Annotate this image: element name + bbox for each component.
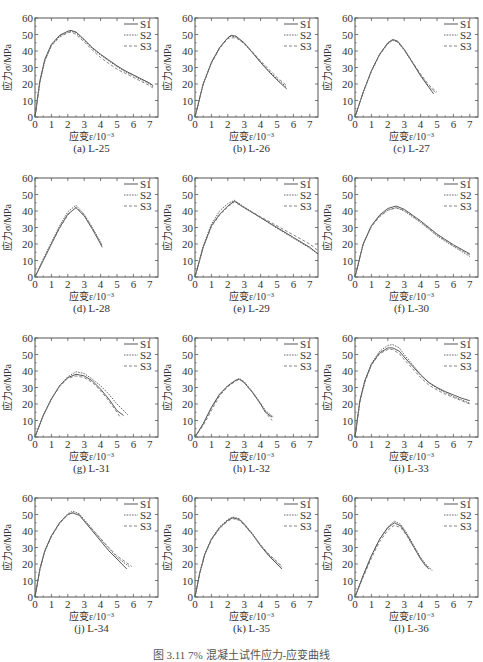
x-tick-label: 1 — [369, 278, 375, 290]
panel-caption: (i) L-33 — [394, 462, 429, 475]
x-tick-label: 7 — [147, 118, 153, 130]
series-s1-line — [355, 523, 429, 597]
y-tick-label: 0 — [188, 591, 194, 603]
y-tick-label: 30 — [22, 382, 34, 394]
x-axis-label: 应变ε/10⁻³ — [389, 610, 434, 622]
x-tick-label: 7 — [307, 118, 313, 130]
x-tick-label: 5 — [434, 278, 440, 290]
legend-label: S3 — [140, 200, 152, 212]
y-tick-label: 60 — [182, 492, 194, 504]
x-tick-label: 3 — [401, 598, 407, 610]
x-tick-label: 4 — [98, 598, 104, 610]
chart-panel-l: 012345670102030405060应力σ/MPa应变ε/10⁻³(l) … — [320, 480, 480, 640]
x-tick-label: 1 — [369, 438, 375, 450]
y-tick-label: 50 — [342, 189, 354, 201]
y-tick-label: 30 — [182, 382, 194, 394]
y-tick-label: 20 — [22, 558, 34, 570]
series-s2-line — [355, 208, 470, 277]
y-axis-label: 应力σ/MPa — [1, 203, 13, 251]
series-s3-line — [35, 32, 153, 117]
x-tick-label: 7 — [307, 598, 313, 610]
y-tick-label: 10 — [22, 575, 34, 587]
y-tick-label: 40 — [22, 205, 34, 217]
y-tick-label: 0 — [28, 271, 34, 283]
y-tick-label: 50 — [182, 349, 194, 361]
y-tick-label: 60 — [182, 172, 194, 184]
legend-label: S3 — [460, 360, 472, 372]
y-tick-label: 20 — [22, 238, 34, 250]
y-tick-label: 30 — [22, 542, 34, 554]
y-axis-label: 应力σ/MPa — [321, 363, 333, 411]
legend-label: S3 — [300, 40, 312, 52]
x-tick-label: 1 — [369, 598, 375, 610]
series-s2-line — [355, 40, 435, 117]
y-tick-label: 10 — [22, 255, 34, 267]
x-tick-label: 6 — [131, 598, 137, 610]
x-tick-label: 5 — [434, 438, 440, 450]
y-tick-label: 30 — [342, 542, 354, 554]
legend-label: S3 — [460, 40, 472, 52]
x-tick-label: 1 — [49, 438, 55, 450]
y-tick-label: 50 — [22, 509, 34, 521]
y-axis-label: 应力σ/MPa — [321, 43, 333, 91]
series-s3-line — [195, 379, 272, 437]
y-axis-label: 应力σ/MPa — [161, 43, 173, 91]
x-tick-label: 1 — [369, 118, 375, 130]
x-tick-label: 1 — [49, 598, 55, 610]
x-tick-label: 1 — [49, 118, 55, 130]
x-tick-label: 6 — [131, 438, 137, 450]
x-tick-label: 6 — [291, 438, 297, 450]
x-tick-label: 7 — [147, 278, 153, 290]
x-tick-label: 5 — [114, 598, 120, 610]
y-axis-label: 应力σ/MPa — [1, 43, 13, 91]
y-tick-label: 30 — [182, 62, 194, 74]
x-tick-label: 3 — [241, 598, 247, 610]
series-s2-line — [195, 36, 287, 117]
x-tick-label: 2 — [225, 278, 231, 290]
chart-panel-k: 012345670102030405060应力σ/MPa应变ε/10⁻³(k) … — [160, 480, 320, 640]
y-axis-label: 应力σ/MPa — [161, 523, 173, 571]
x-tick-label: 6 — [291, 118, 297, 130]
y-tick-label: 20 — [182, 238, 194, 250]
panel-caption: (f) L-30 — [394, 302, 430, 315]
y-tick-label: 40 — [22, 525, 34, 537]
chart-panel-j: 012345670102030405060应力σ/MPa应变ε/10⁻³(j) … — [0, 480, 160, 640]
panel-caption: (h) L-32 — [233, 462, 270, 475]
y-axis-label: 应力σ/MPa — [161, 363, 173, 411]
legend-label: S3 — [460, 520, 472, 532]
panel-caption: (j) L-34 — [74, 622, 109, 635]
x-tick-label: 5 — [114, 118, 120, 130]
y-tick-label: 20 — [342, 78, 354, 90]
y-tick-label: 40 — [342, 525, 354, 537]
y-tick-label: 50 — [22, 29, 34, 41]
chart-panel-i: 012345670102030405060应力σ/MPa应变ε/10⁻³(i) … — [320, 320, 480, 480]
series-s3-line — [355, 40, 437, 117]
y-tick-label: 10 — [22, 95, 34, 107]
y-tick-label: 10 — [342, 415, 354, 427]
x-tick-label: 1 — [209, 598, 215, 610]
y-tick-label: 50 — [182, 509, 194, 521]
chart-panel-d: 012345670102030405060应力σ/MPa应变ε/10⁻³(d) … — [0, 160, 160, 320]
y-axis-label: 应力σ/MPa — [321, 523, 333, 571]
y-tick-label: 20 — [342, 238, 354, 250]
x-tick-label: 4 — [418, 278, 424, 290]
y-tick-label: 20 — [22, 78, 34, 90]
x-tick-label: 7 — [147, 598, 153, 610]
x-tick-label: 4 — [258, 118, 264, 130]
chart-panel-b: 012345670102030405060应力σ/MPa应变ε/10⁻³(b) … — [160, 0, 320, 160]
y-tick-label: 10 — [342, 95, 354, 107]
x-tick-label: 7 — [467, 598, 473, 610]
x-tick-label: 3 — [401, 438, 407, 450]
x-axis-label: 应变ε/10⁻³ — [389, 450, 434, 462]
panel-caption: (c) L-27 — [393, 142, 430, 155]
x-tick-label: 1 — [209, 118, 215, 130]
series-s1-line — [355, 40, 434, 118]
x-tick-label: 0 — [352, 278, 358, 290]
x-tick-label: 0 — [192, 278, 198, 290]
x-tick-label: 2 — [385, 118, 391, 130]
y-tick-label: 20 — [342, 398, 354, 410]
series-s1-line — [195, 379, 272, 437]
series-s1-line — [35, 374, 124, 437]
x-tick-label: 0 — [32, 278, 38, 290]
x-tick-label: 5 — [274, 438, 280, 450]
